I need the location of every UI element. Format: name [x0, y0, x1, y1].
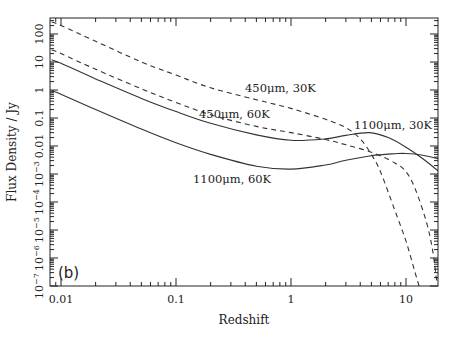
x-tick-label: 0.1 [167, 293, 185, 306]
series-annotation: 1100μm, 30K [354, 118, 433, 132]
y-tick-label: 10 [33, 55, 46, 69]
x-tick-label: 10 [399, 293, 413, 306]
series-annotation: 450μm, 60K [199, 107, 270, 121]
x-tick-label: 0.01 [49, 293, 74, 306]
y-axis-ticks [50, 21, 438, 286]
x-axis-title: Redshift [219, 313, 270, 327]
y-tick-label: 0.1 [33, 109, 46, 127]
x-axis-ticks [56, 18, 406, 286]
y-axis-tick-labels: 10−710−610−510−410−30.010.1110100 [32, 24, 46, 299]
y-tick-label: 1 [33, 87, 46, 94]
y-tick-label: 10−7 [32, 273, 46, 299]
y-axis-title: Flux Density / Jy [5, 102, 19, 202]
series-annotation: 450μm, 30K [245, 81, 316, 95]
x-tick-label: 1 [288, 293, 295, 306]
y-tick-label: 10−4 [32, 189, 46, 215]
y-tick-label: 10−3 [32, 161, 46, 187]
series-line-0 [52, 22, 419, 286]
plot-frame [50, 18, 438, 286]
y-tick-label: 0.01 [33, 134, 46, 159]
y-tick-label: 10−6 [32, 245, 46, 271]
y-tick-label: 100 [33, 24, 46, 45]
x-axis-tick-labels: 0.010.1110 [49, 293, 413, 306]
panel-label: (b) [58, 264, 79, 282]
flux-redshift-chart: 0.010.1110 10−710−610−510−410−30.010.111… [0, 0, 454, 342]
curves-layer [52, 22, 438, 286]
curve-annotations: 450μm, 30K450μm, 60K1100μm, 30K1100μm, 6… [193, 81, 433, 186]
y-tick-label: 10−5 [32, 217, 46, 243]
series-annotation: 1100μm, 60K [193, 172, 272, 186]
